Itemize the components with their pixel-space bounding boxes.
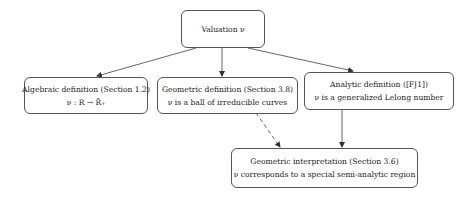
node-valuation: Valuation ν: [181, 10, 265, 48]
node-interpretation-title: Geometric interpretation (Section 3.6): [250, 155, 398, 168]
node-geometric-interpretation: Geometric interpretation (Section 3.6) ν…: [231, 148, 418, 188]
node-algebraic-title: Algebraic definition (Section 1.2): [22, 83, 150, 96]
edge-geometric-to-interpretation: [256, 113, 280, 147]
diagram-canvas: Valuation ν Algebraic definition (Sectio…: [0, 0, 476, 198]
node-analytic-desc: ν is a generalized Lelong number: [315, 91, 444, 104]
edge-root-to-analytic: [248, 48, 353, 71]
node-interpretation-desc: ν corresponds to a special semi-analytic…: [234, 168, 416, 181]
edge-root-to-algebraic: [97, 48, 196, 76]
node-algebraic-formula: ν : R → R̄₊: [67, 96, 106, 109]
node-analytic-title: Analytic definition ([FJ1]): [330, 78, 428, 91]
node-algebraic-definition: Algebraic definition (Section 1.2) ν : R…: [24, 77, 148, 114]
node-analytic-definition: Analytic definition ([FJ1]) ν is a gener…: [304, 72, 454, 110]
node-geometric-definition: Geometric definition (Section 3.8) ν is …: [157, 77, 298, 114]
node-geometric-desc: ν is a ball of irreducible curves: [168, 96, 287, 109]
node-geometric-title: Geometric definition (Section 3.8): [162, 83, 293, 96]
node-valuation-label: Valuation ν: [201, 23, 244, 36]
